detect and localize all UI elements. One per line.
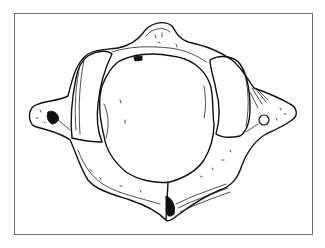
outer-contour [30,23,297,221]
atlas-vertebra-drawing [0,0,325,248]
anterior-tubercle [146,29,170,36]
vertebral-foramen [100,54,214,183]
left-transverse-foramen [47,111,58,124]
right-process-hatching [250,88,268,108]
right-articular-facet [210,57,250,138]
right-transverse-foramen [259,115,269,125]
left-foramen-groove [58,120,70,130]
posterior-tubercle-shadow [166,196,175,216]
bone-texture-marks [36,33,286,192]
left-facet-shading [75,60,108,138]
left-articular-facet [71,51,112,142]
anterior-arch-notch [134,56,142,61]
right-facet-shading [204,70,248,126]
